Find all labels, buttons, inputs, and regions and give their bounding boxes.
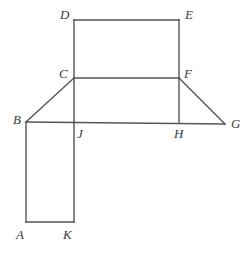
vertex-label-A: A [16,228,24,241]
vertex-label-D: D [60,8,69,21]
vertex-label-B: B [13,113,21,126]
vertex-label-C: C [59,67,68,80]
vertex-label-K: K [63,228,72,241]
vertex-label-F: F [184,67,192,80]
vertex-label-E: E [185,8,193,21]
segment-BG [26,122,225,124]
geometry-canvas [0,0,250,255]
segment-BC [26,78,74,122]
geometry-figure: DECFBGJHAK [0,0,250,255]
segment-FG [179,78,225,124]
vertex-label-J: J [77,127,83,140]
vertex-label-G: G [231,117,240,130]
segment-group [26,20,225,222]
vertex-label-H: H [174,127,183,140]
